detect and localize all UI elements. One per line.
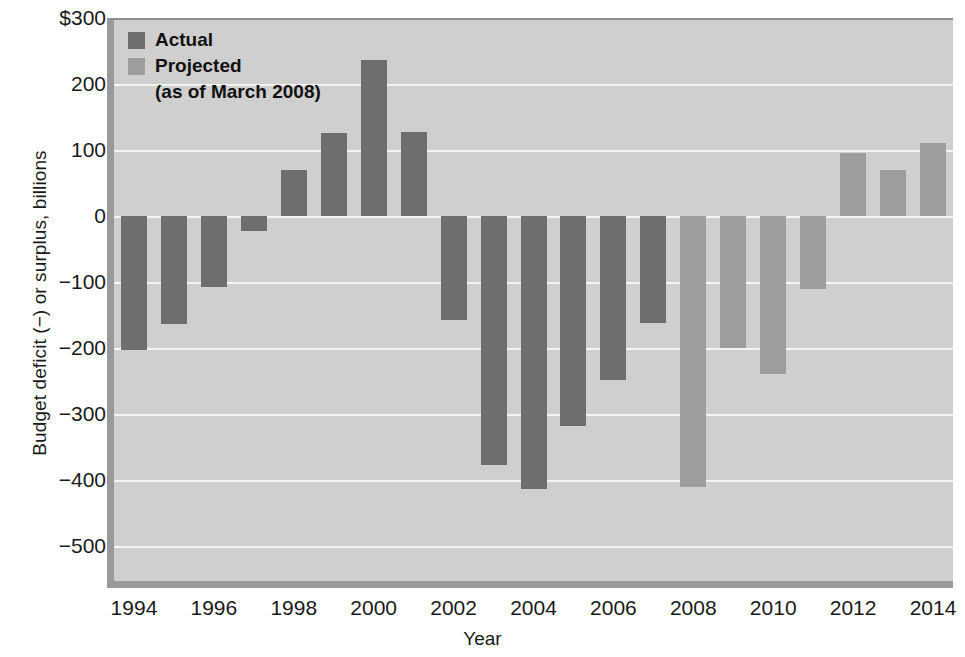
bar-2004 <box>521 216 547 489</box>
legend-label-actual: Actual <box>155 28 213 52</box>
bar-1996 <box>201 216 227 287</box>
x-tick-label: 2012 <box>813 596 893 620</box>
x-axis-title: Year <box>0 628 965 650</box>
bar-2013 <box>880 170 906 216</box>
bar-2011 <box>800 216 826 289</box>
plot-area <box>114 20 953 581</box>
x-tick-label: 2002 <box>414 596 494 620</box>
y-tick-label: −200 <box>16 336 106 360</box>
legend: Actual Projected (as of March 2008) <box>128 28 321 103</box>
bar-2007 <box>640 216 666 323</box>
x-tick-label: 2010 <box>733 596 813 620</box>
legend-item-projected: Projected <box>128 54 321 78</box>
y-tick-label: 100 <box>16 138 106 162</box>
budget-deficit-chart: Budget deficit (−) or surplus, billions … <box>0 0 965 657</box>
bar-1995 <box>161 216 187 324</box>
x-tick-label: 2008 <box>653 596 733 620</box>
x-tick-label: 1994 <box>94 596 174 620</box>
bar-2014 <box>920 143 946 216</box>
bar-2005 <box>560 216 586 426</box>
bar-1997 <box>241 216 267 231</box>
bar-1999 <box>321 133 347 216</box>
x-tick-label: 2000 <box>334 596 414 620</box>
bar-2009 <box>720 216 746 348</box>
bar-2006 <box>600 216 626 380</box>
legend-swatch-actual-icon <box>128 32 145 49</box>
bar-2002 <box>441 216 467 320</box>
bar-2008 <box>680 216 706 487</box>
y-tick-label: −500 <box>16 534 106 558</box>
x-tick-label: 1998 <box>254 596 334 620</box>
legend-item-actual: Actual <box>128 28 321 52</box>
bar-2001 <box>401 132 427 216</box>
legend-swatch-projected-icon <box>128 58 145 75</box>
legend-note-projected: (as of March 2008) <box>155 80 321 104</box>
gridline <box>114 546 953 548</box>
y-tick-label: −100 <box>16 270 106 294</box>
x-tick-label: 2004 <box>494 596 574 620</box>
bar-1994 <box>121 216 147 350</box>
bar-2003 <box>481 216 507 465</box>
bar-2010 <box>760 216 786 374</box>
y-tick-label: −300 <box>16 402 106 426</box>
y-tick-label: 0 <box>16 204 106 228</box>
bar-2000 <box>361 60 387 216</box>
x-tick-label: 2006 <box>573 596 653 620</box>
gridline <box>114 150 953 152</box>
x-tick-label: 2014 <box>893 596 965 620</box>
legend-label-projected: Projected <box>155 54 242 78</box>
y-axis-title: Budget deficit (−) or surplus, billions <box>29 23 51 583</box>
bar-2012 <box>840 153 866 216</box>
y-tick-label: $300 <box>16 6 106 30</box>
y-tick-label: −400 <box>16 468 106 492</box>
x-tick-label: 1996 <box>174 596 254 620</box>
bar-1998 <box>281 170 307 216</box>
y-tick-label: 200 <box>16 72 106 96</box>
